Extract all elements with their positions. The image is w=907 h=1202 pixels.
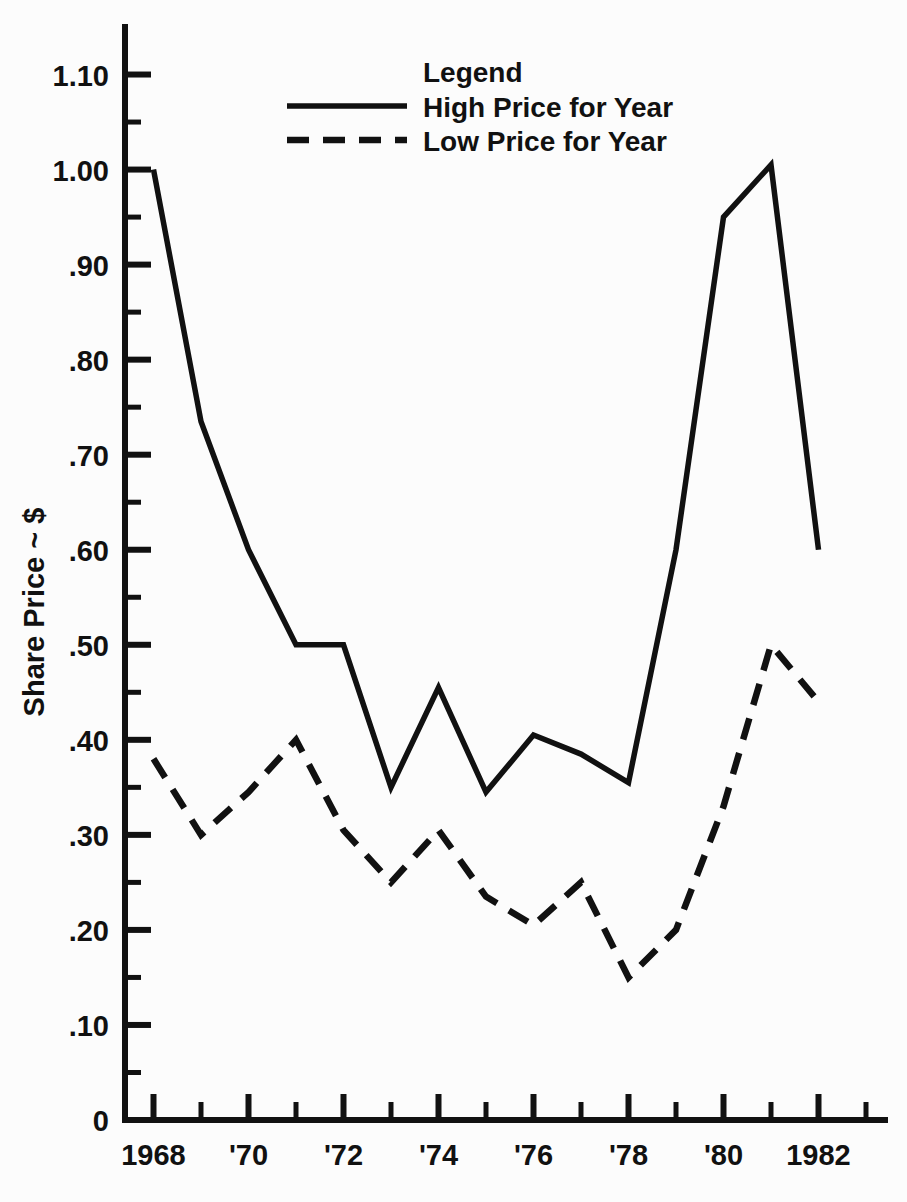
- y-tick-label: 1.10: [53, 60, 109, 92]
- y-tick-label: .20: [69, 915, 109, 947]
- x-tick-label: '70: [229, 1139, 268, 1171]
- y-tick-label: .50: [69, 630, 109, 662]
- legend-label-low-price: Low Price for Year: [423, 126, 667, 157]
- y-tick-label: .80: [69, 345, 109, 377]
- y-tick-label: 0: [93, 1105, 109, 1137]
- y-tick-label: .60: [69, 535, 109, 567]
- x-tick-label: 1968: [121, 1139, 186, 1171]
- y-tick-label: 1.00: [53, 155, 109, 187]
- legend-label-high-price: High Price for Year: [423, 92, 673, 123]
- x-tick-label: '78: [609, 1139, 648, 1171]
- x-tick-label: '76: [514, 1139, 553, 1171]
- y-tick-label: .90: [69, 250, 109, 282]
- y-tick-label: .10: [69, 1010, 109, 1042]
- x-tick-label: 1982: [786, 1139, 851, 1171]
- x-tick-label: '74: [419, 1139, 458, 1171]
- x-tick-label: '72: [324, 1139, 363, 1171]
- x-tick-label: '80: [704, 1139, 743, 1171]
- y-tick-label: .40: [69, 725, 109, 757]
- y-tick-label: .30: [69, 820, 109, 852]
- y-tick-label: .70: [69, 440, 109, 472]
- chart-canvas: 0.10.20.30.40.50.60.70.80.901.001.10 196…: [0, 0, 907, 1202]
- legend-title: Legend: [423, 57, 523, 88]
- share-price-line-chart: 0.10.20.30.40.50.60.70.80.901.001.10 196…: [0, 0, 907, 1202]
- y-axis-title: Share Price ~ $: [18, 508, 50, 717]
